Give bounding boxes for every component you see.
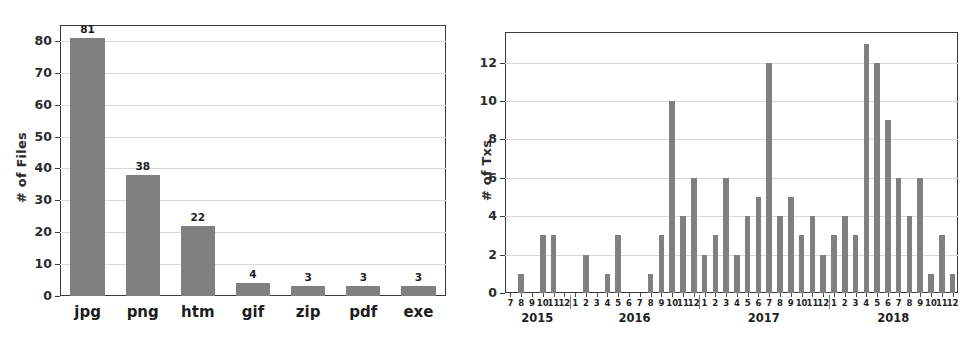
x-tick-mark xyxy=(899,293,900,297)
bar-2016-9 xyxy=(659,235,665,293)
x-tick-mark xyxy=(791,293,792,297)
bar-2017-4 xyxy=(734,255,740,293)
bar-pdf xyxy=(346,286,380,296)
x-tick-mark xyxy=(661,293,662,297)
x-tick-mark xyxy=(931,293,932,297)
bar-exe xyxy=(401,286,435,296)
bar-2018-12 xyxy=(950,274,956,293)
y-tick-label: 2 xyxy=(471,247,497,262)
bar-2017-10 xyxy=(799,235,805,293)
x-year-label-2018: 2018 xyxy=(863,311,923,325)
y-tick-label: 8 xyxy=(471,131,497,146)
x-tick-mark xyxy=(888,293,889,297)
bar-2017-2 xyxy=(713,235,719,293)
y-tick-label: 6 xyxy=(471,170,497,185)
bar-2015-10 xyxy=(540,235,546,293)
y-tick-label: 4 xyxy=(471,208,497,223)
bar-2018-4 xyxy=(864,44,870,293)
bar-2015-11 xyxy=(551,235,557,293)
gridline xyxy=(60,73,446,74)
x-category-label-exe: exe xyxy=(378,303,458,321)
x-tick-mark xyxy=(597,293,598,297)
y-tick-mark xyxy=(500,139,505,140)
x-tick-mark xyxy=(769,293,770,297)
x-tick-mark xyxy=(521,293,522,297)
y-tick-mark xyxy=(55,73,60,74)
bar-2017-8 xyxy=(777,216,783,293)
y-tick-label: 30 xyxy=(12,192,52,207)
bar-png xyxy=(126,175,160,296)
bar-2018-7 xyxy=(896,178,902,293)
y-tick-mark xyxy=(55,105,60,106)
bar-2016-12 xyxy=(691,178,697,293)
bar-2018-10 xyxy=(928,274,934,293)
y-tick-label: 10 xyxy=(471,93,497,108)
x-month-label-2018-12: 12 xyxy=(944,298,962,308)
y-tick-mark xyxy=(55,41,60,42)
y-tick-label: 0 xyxy=(12,288,52,303)
y-tick-label: 10 xyxy=(12,256,52,271)
gridline xyxy=(60,137,446,138)
x-tick-mark xyxy=(834,293,835,297)
bar-value-label-htm: 22 xyxy=(168,211,228,223)
gridline xyxy=(60,105,446,106)
bar-2018-8 xyxy=(907,216,913,293)
x-tick-mark xyxy=(564,293,565,297)
bar-2017-5 xyxy=(745,216,751,293)
x-tick-mark xyxy=(694,293,695,297)
gridline xyxy=(60,232,446,233)
chart-panel-files: # of Files 01020304050607080 8138224333 … xyxy=(0,0,470,340)
gridline xyxy=(60,200,446,201)
gridline xyxy=(60,41,446,42)
y-tick-mark xyxy=(500,216,505,217)
bar-jpg xyxy=(70,38,104,296)
x-year-label-2015: 2015 xyxy=(507,311,567,325)
x-tick-mark xyxy=(683,293,684,297)
year-separator-2018 xyxy=(829,295,830,309)
y-tick-label: 0 xyxy=(471,285,497,300)
x-tick-mark xyxy=(845,293,846,297)
x-tick-mark xyxy=(543,293,544,297)
y-tick-mark xyxy=(55,200,60,201)
gridline xyxy=(505,101,958,102)
bar-htm xyxy=(181,226,215,296)
x-tick-mark xyxy=(510,293,511,297)
x-tick-mark xyxy=(554,293,555,297)
y-tick-label: 70 xyxy=(12,65,52,80)
bar-value-label-gif: 4 xyxy=(223,268,283,280)
y-tick-label: 20 xyxy=(12,224,52,239)
x-tick-mark xyxy=(607,293,608,297)
x-tick-mark xyxy=(780,293,781,297)
x-tick-mark xyxy=(705,293,706,297)
y-tick-label: 12 xyxy=(471,55,497,70)
bar-2017-3 xyxy=(723,178,729,293)
bar-2017-11 xyxy=(810,216,816,293)
y-tick-label: 80 xyxy=(12,33,52,48)
bar-2018-1 xyxy=(831,235,837,293)
bar-2017-1 xyxy=(702,255,708,293)
y-tick-mark xyxy=(55,168,60,169)
bar-2018-9 xyxy=(917,178,923,293)
x-tick-mark xyxy=(953,293,954,297)
x-tick-mark xyxy=(748,293,749,297)
y-tick-mark xyxy=(500,293,505,294)
bar-value-label-exe: 3 xyxy=(388,271,448,283)
x-tick-mark xyxy=(618,293,619,297)
y-tick-mark xyxy=(55,137,60,138)
bar-2016-4 xyxy=(605,274,611,293)
bar-2017-12 xyxy=(820,255,826,293)
bar-2016-8 xyxy=(648,274,654,293)
x-tick-mark xyxy=(726,293,727,297)
bar-2018-2 xyxy=(842,216,848,293)
y-tick-label: 40 xyxy=(12,160,52,175)
bar-zip xyxy=(291,286,325,296)
chart-panel-txs: # of Txs 024681012 789101112123456789101… xyxy=(470,0,976,340)
bar-2018-11 xyxy=(939,235,945,293)
year-separator-2017 xyxy=(699,295,700,309)
bar-2018-3 xyxy=(853,235,859,293)
x-tick-mark xyxy=(866,293,867,297)
bar-2015-8 xyxy=(518,274,524,293)
bar-gif xyxy=(236,283,270,296)
x-tick-mark xyxy=(856,293,857,297)
x-tick-mark xyxy=(640,293,641,297)
